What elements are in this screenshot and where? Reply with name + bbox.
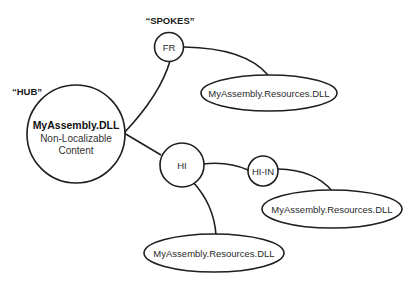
spoke-label-hi-in: HI-IN [252,166,274,177]
spoke-label-hi: HI [177,160,187,171]
edge-fr-resources [184,47,268,75]
hub-title: MyAssembly.DLL [33,119,120,131]
resource-label-hi-in: MyAssembly.Resources.DLL [271,204,392,215]
edge-hi-hiin [203,163,248,170]
hub-label: “HUB” [12,86,42,97]
resource-label-hi: MyAssembly.Resources.DLL [153,248,274,259]
edge-hiin-resources [278,169,332,191]
edge-hi-resources [193,182,216,235]
hub-spoke-diagram: MyAssembly.DLL Non-Localizable Content F… [0,0,415,288]
resource-label-fr: MyAssembly.Resources.DLL [208,88,329,99]
hub-subtitle-line2: Content [58,145,93,156]
hub-subtitle-line1: Non-Localizable [40,133,112,144]
spoke-label-fr: FR [163,42,176,53]
edge-hub-fr [124,61,170,133]
spokes-label: “SPOKES” [145,15,194,26]
edge-hub-hi [124,133,161,155]
